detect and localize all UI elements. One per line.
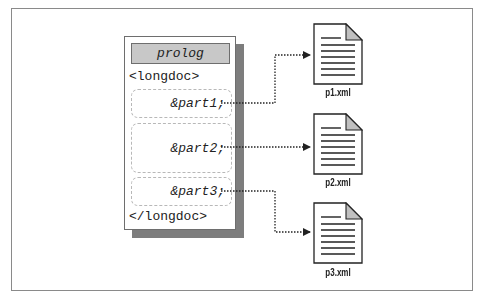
prolog-box: prolog xyxy=(131,43,230,64)
file-icon-p3 xyxy=(313,202,363,264)
close-tag: </longdoc> xyxy=(129,209,207,225)
file-label-p3: p3.xml xyxy=(314,267,362,278)
file-label-p1: p1.xml xyxy=(314,87,362,98)
entity-part2: &part2; xyxy=(131,123,232,173)
file-icon-p1 xyxy=(313,23,363,85)
file-label-p2: p2.xml xyxy=(314,177,362,188)
entity-part1-label: &part1; xyxy=(170,96,225,111)
entity-part3-label: &part3; xyxy=(170,184,225,199)
entity-part2-label: &part2; xyxy=(170,141,225,156)
entity-part3: &part3; xyxy=(131,177,232,206)
longdoc-document: prolog <longdoc> &part1; &part2; &part3;… xyxy=(124,36,236,230)
entity-part1: &part1; xyxy=(131,89,232,118)
open-tag: <longdoc> xyxy=(129,69,199,85)
file-icon-p2 xyxy=(313,113,363,175)
